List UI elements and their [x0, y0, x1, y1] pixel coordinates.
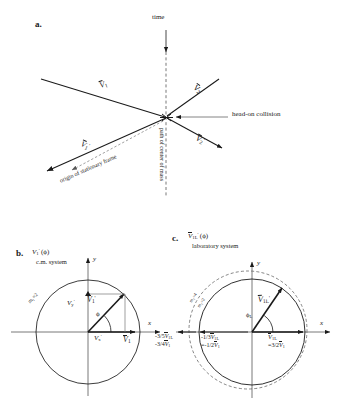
panel-c-vector-V1L-prime-label: V1L' [258, 296, 270, 305]
panel-b-graphics [11, 258, 160, 396]
panel-b-subtitle: c.m. system [36, 259, 67, 266]
panel-b-x-axis-label: x [148, 320, 151, 327]
panel-c-left-value-3: -1/3V1L [201, 334, 219, 341]
panel-b-vector-V1-prime-label: V1' [87, 296, 96, 305]
panel-c-outer-circle-m4 [189, 271, 307, 389]
vector-V2-prime-line [167, 118, 222, 148]
panel-b-y-axis-label: y [93, 256, 96, 263]
panel-c-angle-arc [264, 316, 273, 333]
panel-c-subtitle: laboratory system [192, 243, 238, 250]
panel-b-vector-Vx-prime-label: Vx' [94, 335, 102, 343]
panel-b-vector-V1-label: V1 [123, 336, 131, 345]
panel-c-title: V1L' (ϕ) [188, 233, 208, 241]
panel-c-vector-V1L-label: V1L [268, 334, 277, 341]
panel-c-left-value-1: -3/5V1L [155, 333, 173, 340]
panel-c-y-axis-label: y [257, 260, 260, 267]
panel-a-time-label: time [152, 14, 164, 21]
panel-a-graphics [41, 30, 228, 197]
panel-c-x-axis-label: x [320, 320, 323, 327]
panel-b-vector-Vy-prime-label: Vy' [67, 300, 75, 308]
vector-V2-line [167, 79, 219, 116]
panel-c-letter: c. [172, 234, 178, 243]
panel-a-path-center-of-mass-label: path of center of mass [159, 128, 165, 181]
panel-c-left-value-2: -3/4V1 [155, 341, 170, 348]
panel-c-angle-label: ϕL [246, 312, 252, 319]
panel-b-angle-arc [104, 316, 111, 332]
panel-a-letter: a. [35, 20, 42, 29]
panel-a-head-on-collision-label: head-on collision [232, 111, 280, 118]
panel-b-letter: b. [16, 249, 23, 258]
figure-vector-graphics [0, 0, 345, 402]
panel-c-value-V1L: =3/2V1 [268, 342, 285, 349]
panel-c-graphics [176, 262, 330, 398]
panel-b-title: V1' (ϕ) [32, 249, 49, 257]
panel-b-angle-label: ϕ [96, 311, 100, 318]
panel-c-left-value-4: =-1/2V1 [201, 342, 220, 349]
physics-collision-figure: a. time head-on collision origin of stat… [0, 0, 345, 402]
